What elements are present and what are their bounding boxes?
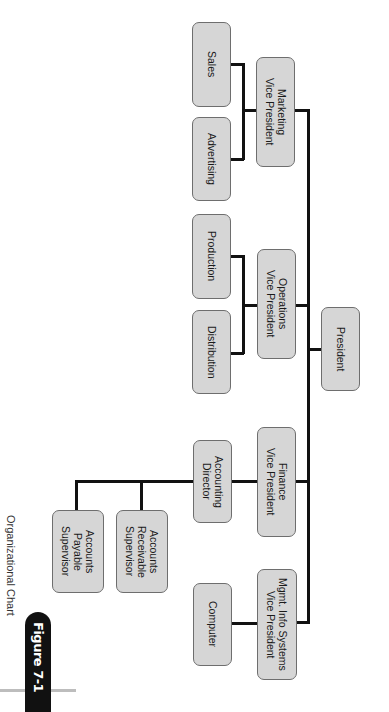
box-label: Production: [206, 231, 218, 281]
box-label: Operations Vice President: [265, 270, 289, 338]
connector-sales: [230, 63, 244, 66]
connector-accounting-branch: [75, 480, 194, 483]
box-finance-vp: Finance Vice President: [257, 427, 296, 537]
box-label: Marketing Vice President: [264, 78, 288, 146]
box-mis-vp: Mgmt. Info Systems Vice President: [257, 569, 297, 680]
figure-caption: Organizational Chart: [3, 515, 17, 705]
box-ap-supervisor: Accounts Payable Supervisor: [52, 510, 104, 593]
connector-accounting: [231, 480, 258, 483]
box-label: Distribution: [206, 326, 218, 379]
box-president: President: [321, 307, 360, 391]
connector-marketing-branch: [243, 109, 257, 112]
box-label: President: [335, 327, 347, 371]
box-advertising: Advertising: [192, 117, 231, 201]
connector-operations-vertical: [242, 255, 245, 354]
box-marketing-vp: Marketing Vice President: [256, 57, 295, 167]
connector-production: [230, 255, 244, 258]
box-label: Sales: [206, 51, 218, 77]
connector-marketing: [294, 109, 309, 112]
box-label: Accounts Receivable Supervisor: [124, 526, 160, 578]
spine-line: [307, 109, 310, 624]
connector-marketing-vertical: [242, 63, 245, 160]
box-distribution: Distribution: [192, 310, 231, 394]
box-operations-vp: Operations Vice President: [257, 249, 296, 359]
connector-finance: [294, 480, 309, 483]
box-label: Advertising: [206, 133, 218, 185]
connector-ar: [140, 480, 143, 511]
connector-advertising: [230, 158, 244, 161]
box-label: Computer: [207, 601, 219, 647]
box-label: Accounting Director: [201, 456, 225, 508]
box-sales: Sales: [192, 22, 231, 107]
connector-distribution: [230, 352, 244, 355]
connector-computer: [231, 622, 258, 625]
connector-operations: [294, 304, 309, 307]
box-computer: Computer: [193, 583, 232, 666]
box-label: Finance Vice President: [265, 448, 289, 516]
connector-president: [307, 348, 322, 351]
connector-ap: [75, 480, 78, 511]
box-production: Production: [192, 214, 231, 299]
connector-mis: [295, 621, 310, 624]
box-label: Mgmt. Info Systems Vice President: [265, 578, 289, 671]
box-label: Accounts Payable Supervisor: [60, 526, 96, 576]
box-ar-supervisor: Accounts Receivable Supervisor: [116, 510, 168, 593]
figure-tab: Figure 7-1: [25, 612, 51, 712]
figure-tab-label: Figure 7-1: [31, 622, 46, 692]
connector-operations-branch: [243, 304, 257, 307]
box-accounting-director: Accounting Director: [193, 440, 232, 523]
